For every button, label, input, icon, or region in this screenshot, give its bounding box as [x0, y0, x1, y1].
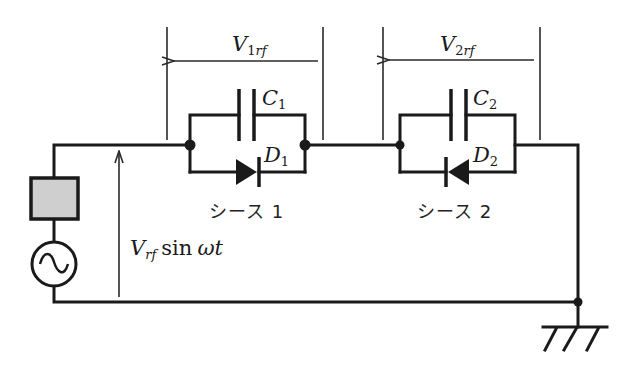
v2rf-symbol: V [440, 32, 455, 56]
d2-diode-triangle [448, 159, 469, 185]
ac-source-icon [32, 242, 76, 286]
d2-label: D2 [473, 143, 498, 169]
ground-hatch-3 [587, 329, 598, 350]
sin-func: sin [161, 236, 192, 260]
sheath-1 [185, 89, 311, 187]
circuit-diagram: V1rf V2rf C1 C2 D1 D2 シース 1 シース 2 Vrf si… [0, 0, 631, 377]
sheath1-label: シース 1 [209, 197, 284, 223]
v2rf-label: V2rf [440, 32, 474, 58]
c1-sub: 1 [278, 97, 286, 112]
impedance-box [31, 178, 78, 219]
d2-symbol: D [473, 143, 490, 167]
node-3 [396, 141, 405, 150]
source-voltage-label: Vrf sin ωt [130, 236, 223, 262]
d1-sub: 1 [281, 154, 289, 169]
c2-left-lead [400, 115, 451, 172]
d1-symbol: D [264, 143, 281, 167]
wire-bottom [54, 286, 578, 302]
vrf-symbol: V [130, 236, 145, 260]
sheath2-label: シース 2 [417, 197, 492, 223]
ground-hatch-1 [545, 329, 556, 350]
c1-left-lead [190, 115, 239, 172]
d2-sub: 2 [490, 154, 498, 169]
vrf-sub: rf [145, 247, 156, 262]
c2-label: C2 [473, 86, 497, 112]
d1-diode-triangle [236, 159, 257, 185]
ground-hatch-2 [564, 329, 576, 350]
omega-t: ωt [197, 236, 223, 260]
d1-label: D1 [264, 143, 289, 169]
c2-sub: 2 [489, 97, 497, 112]
v2rf-sub-rf: rf [463, 43, 474, 58]
node-1 [185, 140, 196, 151]
v1rf-symbol: V [232, 32, 247, 56]
wire-right [515, 145, 578, 302]
wire-top-left [54, 145, 190, 178]
ground-icon [543, 298, 607, 351]
c1-label: C1 [262, 86, 286, 112]
c2-symbol: C [473, 86, 489, 110]
circuit-svg [0, 0, 631, 377]
wires [54, 145, 578, 302]
v1rf-label: V1rf [232, 32, 266, 58]
v1rf-sub-rf: rf [255, 43, 266, 58]
c1-symbol: C [262, 86, 278, 110]
node-2 [300, 140, 311, 151]
